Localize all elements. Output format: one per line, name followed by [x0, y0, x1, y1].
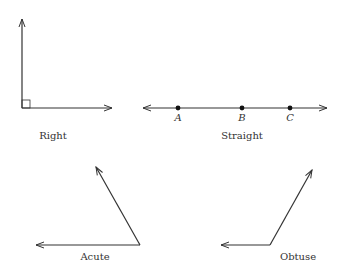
point-b-label: B — [238, 112, 245, 123]
point-a-label: A — [174, 112, 181, 123]
point-c — [288, 106, 293, 111]
obtuse-angle-figure — [221, 170, 312, 245]
point-b — [240, 106, 245, 111]
right-label: Right — [39, 130, 67, 141]
point-c-label: C — [286, 112, 294, 123]
acute-angle-figure — [36, 167, 140, 245]
acute-label: Acute — [80, 251, 109, 262]
point-a — [176, 106, 181, 111]
straight-label: Straight — [221, 130, 263, 141]
obtuse-label: Obtuse — [280, 251, 316, 262]
straight-angle-figure — [143, 106, 327, 111]
right-angle-marker — [22, 100, 30, 108]
right-angle-figure — [22, 19, 112, 108]
